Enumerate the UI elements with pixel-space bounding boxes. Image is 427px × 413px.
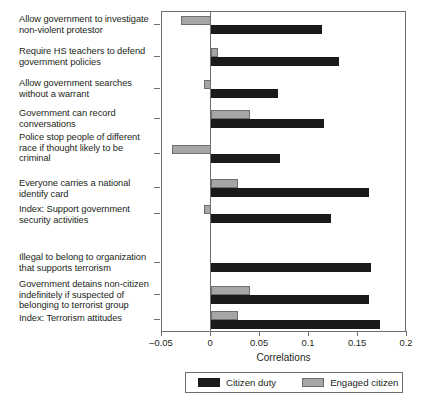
y-axis-tick	[154, 153, 160, 154]
category-label-line: criminal	[19, 153, 161, 164]
bar-citizen-duty	[211, 57, 339, 66]
category-label: Allow government searcheswithout a warra…	[19, 78, 161, 99]
x-axis-tick	[210, 331, 211, 336]
y-axis-tick	[154, 187, 160, 188]
category-label-line: Allow government to investigate	[19, 14, 161, 25]
x-axis-tick	[161, 331, 162, 336]
category-labels: Allow government to investigatenon-viole…	[0, 0, 161, 330]
category-label-line: Index: Terrorism attitudes	[19, 313, 161, 324]
bar-engaged-citizen	[181, 16, 211, 25]
category-label-line: Allow government searches	[19, 78, 161, 89]
category-label-line: conversations	[19, 119, 161, 130]
x-axis-tick	[357, 331, 358, 336]
category-label-line: Illegal to belong to organization	[19, 252, 161, 263]
bar-citizen-duty	[211, 214, 331, 223]
category-label-line: that supports terrorism	[19, 263, 161, 274]
legend-label: Citizen duty	[226, 377, 276, 388]
x-axis: –0.0500.050.10.150.2	[161, 331, 406, 332]
legend-item-engaged-citizen: Engaged citizen	[302, 377, 398, 388]
y-axis-tick	[154, 24, 160, 25]
x-axis-tick	[308, 331, 309, 336]
category-label-line: Police stop people of different	[19, 132, 161, 143]
category-label-line: Government can record	[19, 108, 161, 119]
bar-citizen-duty	[211, 188, 369, 197]
bar-engaged-citizen	[204, 80, 211, 89]
x-axis-tick-label: 0	[207, 337, 212, 348]
category-label: Index: Support governmentsecurity activi…	[19, 204, 161, 225]
x-axis-title: Correlations	[161, 352, 406, 363]
bar-citizen-duty	[211, 320, 380, 329]
category-label: Allow government to investigatenon-viole…	[19, 14, 161, 35]
x-axis-tick-label: 0.05	[250, 337, 268, 348]
bar-engaged-citizen	[172, 145, 211, 154]
y-axis-tick	[154, 294, 160, 295]
bar-citizen-duty	[211, 119, 324, 128]
category-label-line: without a warrant	[19, 89, 161, 100]
y-axis-tick	[154, 88, 160, 89]
x-axis-tick	[259, 331, 260, 336]
bar-engaged-citizen	[204, 205, 211, 214]
legend-item-citizen-duty: Citizen duty	[198, 377, 276, 388]
category-label-line: race if thought likely to be	[19, 143, 161, 154]
chart-legend: Citizen duty Engaged citizen	[185, 372, 403, 393]
bar-engaged-citizen	[211, 48, 218, 57]
x-axis-tick-label: 0.1	[301, 337, 314, 348]
category-label: Illegal to belong to organizationthat su…	[19, 252, 161, 273]
y-axis-tick	[154, 319, 160, 320]
category-label: Government detains non-citizenindefinite…	[19, 279, 161, 311]
category-label-line: indefinitely if suspected of	[19, 290, 161, 301]
y-axis-tick	[154, 262, 160, 263]
bar-citizen-duty	[211, 263, 371, 272]
plot-area	[161, 11, 406, 332]
category-label-line: identify card	[19, 189, 161, 200]
x-axis-tick-label: –0.05	[149, 337, 172, 348]
category-label: Everyone carries a nationalidentify card	[19, 178, 161, 199]
category-label-line: Require HS teachers to defend	[19, 46, 161, 57]
x-axis-tick-label: 0.2	[399, 337, 412, 348]
x-axis-tick-label: 0.15	[348, 337, 366, 348]
category-label-line: non-violent protestor	[19, 25, 161, 36]
bar-engaged-citizen	[211, 311, 238, 320]
bar-citizen-duty	[211, 25, 322, 34]
x-axis-tick	[406, 331, 407, 336]
category-label: Government can recordconversations	[19, 108, 161, 129]
category-label: Police stop people of differentrace if t…	[19, 132, 161, 164]
legend-swatch-icon	[302, 378, 324, 387]
bar-engaged-citizen	[211, 110, 250, 119]
category-label-line: government policies	[19, 57, 161, 68]
y-axis-tick	[154, 118, 160, 119]
category-label-line: Everyone carries a national	[19, 178, 161, 189]
bar-citizen-duty	[211, 154, 280, 163]
category-label: Require HS teachers to defendgovernment …	[19, 46, 161, 67]
legend-label: Engaged citizen	[330, 377, 398, 388]
category-label-line: security activities	[19, 215, 161, 226]
bar-engaged-citizen	[211, 179, 238, 188]
category-label-line: Government detains non-citizen	[19, 279, 161, 290]
category-label: Index: Terrorism attitudes	[19, 313, 161, 324]
chart-figure: Allow government to investigatenon-viole…	[0, 0, 427, 413]
bar-engaged-citizen	[211, 286, 250, 295]
bar-citizen-duty	[211, 295, 369, 304]
category-label-line: belonging to terrorist group	[19, 300, 161, 311]
y-axis-tick	[154, 56, 160, 57]
y-axis-tick	[154, 213, 160, 214]
legend-swatch-icon	[198, 378, 220, 387]
category-label-line: Index: Support government	[19, 204, 161, 215]
bar-citizen-duty	[211, 89, 278, 98]
